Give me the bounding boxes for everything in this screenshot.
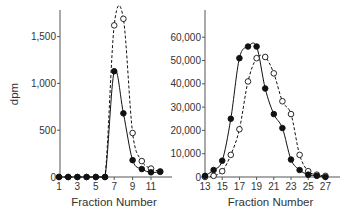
filled-data-point bbox=[157, 169, 163, 175]
filled-data-point bbox=[245, 44, 251, 50]
open-data-point bbox=[254, 55, 260, 61]
open-data-point bbox=[288, 111, 294, 117]
x-tick-label: 27 bbox=[320, 181, 332, 192]
filled-data-point bbox=[314, 173, 320, 179]
x-tick-label: 21 bbox=[268, 181, 280, 192]
x-tick-label: 1 bbox=[56, 181, 62, 192]
filled-data-point bbox=[56, 174, 62, 180]
filled-data-point bbox=[102, 174, 108, 180]
filled-data-point bbox=[237, 55, 243, 61]
chart-svg: 05001,0001,5001357911Fraction Numberdpm0… bbox=[0, 0, 354, 217]
y-tick-label: 1,000 bbox=[31, 78, 56, 89]
filled-data-point bbox=[254, 44, 260, 50]
open-data-point bbox=[237, 126, 243, 132]
filled-data-point bbox=[130, 157, 136, 163]
y-tick-label: 500 bbox=[39, 125, 56, 136]
open-series-line bbox=[59, 5, 160, 177]
open-data-point bbox=[245, 79, 251, 85]
open-data-point bbox=[219, 168, 225, 174]
filled-series-line bbox=[205, 43, 325, 177]
x-tick-label: 15 bbox=[217, 181, 229, 192]
filled-data-point bbox=[323, 174, 329, 180]
x-axis-label: Fraction Number bbox=[228, 196, 314, 208]
filled-data-point bbox=[202, 173, 208, 179]
x-tick-label: 19 bbox=[251, 181, 263, 192]
filled-data-point bbox=[121, 111, 127, 117]
filled-data-point bbox=[111, 68, 117, 74]
x-tick-label: 11 bbox=[146, 181, 157, 192]
x-tick-label: 7 bbox=[111, 181, 117, 192]
left-panel: 05001,0001,5001357911Fraction Numberdpm bbox=[8, 5, 172, 208]
filled-data-point bbox=[211, 167, 217, 173]
filled-data-point bbox=[93, 174, 99, 180]
y-tick-label: 10,000 bbox=[170, 148, 201, 159]
filled-data-point bbox=[288, 157, 294, 163]
filled-data-point bbox=[297, 167, 303, 173]
filled-data-point bbox=[75, 174, 81, 180]
open-data-point bbox=[297, 152, 303, 158]
filled-data-point bbox=[84, 174, 90, 180]
open-data-point bbox=[228, 152, 234, 158]
filled-data-point bbox=[262, 86, 268, 92]
open-data-point bbox=[280, 98, 286, 104]
y-tick-label: 1,500 bbox=[31, 31, 56, 42]
x-tick-label: 25 bbox=[303, 181, 315, 192]
right-panel: 010,00020,00030,00040,00050,00060,000131… bbox=[170, 10, 340, 208]
open-data-point bbox=[211, 173, 217, 179]
y-tick-label: 50,000 bbox=[170, 55, 201, 66]
x-tick-label: 13 bbox=[199, 181, 211, 192]
x-tick-label: 5 bbox=[93, 181, 99, 192]
y-tick-label: 30,000 bbox=[170, 102, 201, 113]
x-tick-label: 9 bbox=[130, 181, 136, 192]
open-data-point bbox=[111, 23, 117, 29]
open-data-point bbox=[121, 16, 127, 22]
open-data-point bbox=[271, 71, 277, 77]
x-tick-label: 3 bbox=[75, 181, 81, 192]
filled-data-point bbox=[305, 172, 311, 178]
y-tick-label: 20,000 bbox=[170, 125, 201, 136]
y-axis-label: dpm bbox=[8, 83, 20, 105]
filled-data-point bbox=[148, 170, 154, 176]
y-tick-label: 60,000 bbox=[170, 32, 201, 43]
filled-data-point bbox=[228, 116, 234, 122]
filled-data-point bbox=[139, 166, 145, 172]
open-data-point bbox=[139, 158, 145, 164]
filled-data-point bbox=[280, 125, 286, 131]
filled-data-point bbox=[219, 158, 225, 164]
open-data-point bbox=[130, 130, 136, 136]
x-tick-label: 17 bbox=[234, 181, 246, 192]
x-axis-label: Fraction Number bbox=[71, 196, 157, 208]
open-data-point bbox=[262, 54, 268, 60]
filled-data-point bbox=[65, 174, 71, 180]
filled-data-point bbox=[271, 111, 277, 117]
y-tick-label: 40,000 bbox=[170, 78, 201, 89]
figure: 05001,0001,5001357911Fraction Numberdpm0… bbox=[0, 0, 354, 217]
x-tick-label: 23 bbox=[285, 181, 297, 192]
